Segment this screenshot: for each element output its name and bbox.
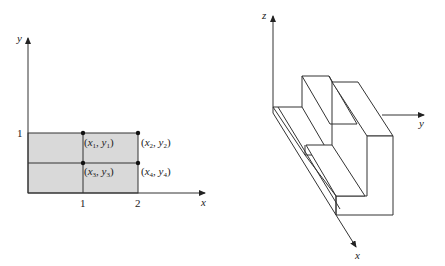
point-1-label: (x1, y1)	[84, 136, 114, 150]
point-2-label: (x2, y2)	[141, 136, 171, 150]
left-diagram: y x 1 1 2 (x1, y1) (x2, y2) (x3, y3) (x4…	[16, 32, 206, 209]
y-axis-label: y	[16, 32, 22, 44]
point-1	[81, 131, 85, 135]
x-tick-1: 1	[80, 197, 86, 209]
x-axis-3d-label: x	[354, 249, 360, 261]
figure-canvas: y x 1 1 2 (x1, y1) (x2, y2) (x3, y3) (x4…	[0, 0, 445, 266]
y-tick-1: 1	[17, 127, 23, 139]
point-3-label: (x3, y3)	[84, 165, 114, 179]
x-axis-label: x	[200, 196, 206, 208]
point-4	[136, 161, 140, 165]
x-axis-3d	[336, 215, 356, 247]
stepped-solid	[273, 76, 393, 215]
y-axis-3d-label: y	[418, 117, 424, 129]
point-2	[136, 131, 140, 135]
z-axis-label: z	[261, 9, 267, 21]
right-diagram: z y x	[261, 9, 424, 261]
x-tick-2: 2	[135, 197, 141, 209]
point-4-label: (x4, y4)	[141, 165, 171, 179]
